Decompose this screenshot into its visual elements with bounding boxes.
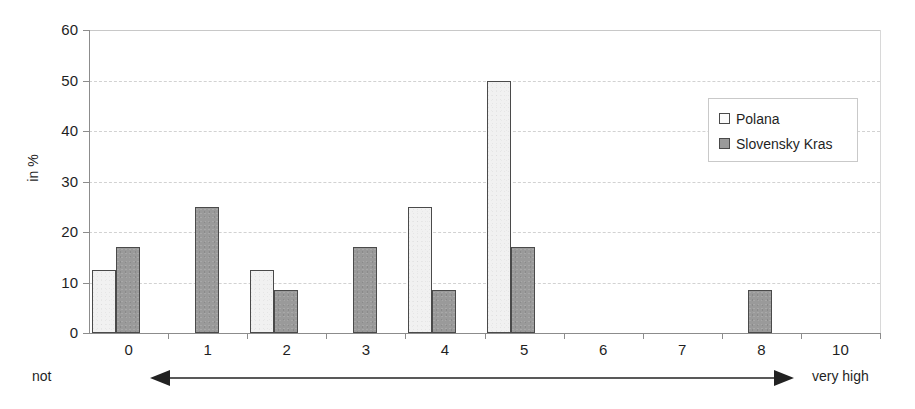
x-tick-1: [247, 333, 248, 339]
x-tick-5: [564, 333, 565, 339]
y-tick-label-50: 50: [10, 73, 78, 88]
y-tick-label-10: 10: [10, 275, 78, 290]
x-tick-0: [168, 333, 169, 339]
y-tick-label-40: 40: [10, 123, 78, 138]
bar-polana-5: [487, 81, 511, 334]
x-tick-label-6: 6: [573, 341, 633, 359]
x-tick-10: [880, 333, 881, 339]
y-tick-label-20: 20: [10, 224, 78, 239]
x-tick-4: [485, 333, 486, 339]
x-tick-8: [801, 333, 802, 339]
double-arrow-icon: [148, 366, 796, 390]
gridline-60: [89, 30, 880, 31]
x-tick-2: [326, 333, 327, 339]
x-tick-label-8: 8: [731, 341, 791, 359]
legend-label-polana: Polana: [736, 112, 780, 126]
gridline-30: [89, 182, 880, 183]
legend-item-slovensky-kras: Slovensky Kras: [719, 131, 857, 156]
bar-polana-0: [92, 270, 116, 333]
chart-legend: Polana Slovensky Kras: [708, 98, 858, 162]
plot-right-border: [880, 30, 881, 333]
legend-swatch-icon-polana: [719, 113, 730, 124]
x-tick-label-1: 1: [178, 341, 238, 359]
x-tick-label-3: 3: [336, 341, 396, 359]
y-tick-label-30: 30: [10, 174, 78, 189]
bar-slovensky-kras-1: [195, 207, 219, 333]
bar-slovensky-kras-0: [116, 247, 140, 333]
scale-caption-right: very high: [812, 368, 869, 384]
x-tick-7: [722, 333, 723, 339]
y-tick-label-60: 60: [10, 22, 78, 37]
legend-item-polana: Polana: [719, 106, 857, 131]
plot-area: [89, 30, 880, 333]
bar-slovensky-kras-8: [748, 290, 772, 333]
bar-slovensky-kras-5: [511, 247, 535, 333]
bar-chart: in % 0102030405060 01234567810 Polana Sl…: [0, 0, 915, 409]
y-tick-label-0: 0: [10, 325, 78, 340]
bar-slovensky-kras-4: [432, 290, 456, 333]
bar-polana-2: [250, 270, 274, 333]
x-tick-label-4: 4: [415, 341, 475, 359]
y-axis-title: in %: [25, 133, 41, 203]
x-tick-label-10: 10: [810, 341, 870, 359]
legend-swatch-icon-slovensky-kras: [719, 138, 730, 149]
scale-caption-left: not: [32, 368, 51, 384]
y-axis-line: [89, 30, 90, 333]
legend-label-slovensky-kras: Slovensky Kras: [736, 137, 832, 151]
x-tick-3: [405, 333, 406, 339]
x-tick-label-2: 2: [257, 341, 317, 359]
x-tick-6: [643, 333, 644, 339]
bar-slovensky-kras-3: [353, 247, 377, 333]
bar-slovensky-kras-2: [274, 290, 298, 333]
x-tick-label-7: 7: [652, 341, 712, 359]
x-tick-label-5: 5: [494, 341, 554, 359]
x-tick-label-0: 0: [99, 341, 159, 359]
bar-polana-4: [408, 207, 432, 333]
gridline-50: [89, 81, 880, 82]
